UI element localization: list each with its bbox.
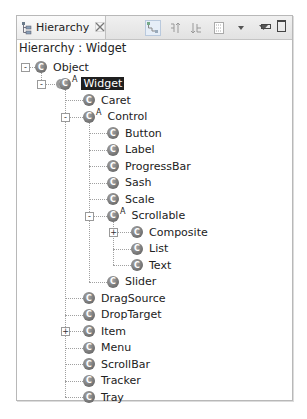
tree-connector (65, 348, 83, 349)
tree-item[interactable]: CDropTarget (83, 307, 162, 323)
abstract-marker: A (120, 207, 125, 216)
tree-item-label: ProgressBar (125, 160, 191, 173)
class-icon: C (107, 127, 119, 139)
show-supertype-hierarchy-button[interactable] (167, 20, 183, 36)
expand-toggle[interactable]: + (61, 327, 70, 336)
tree-item-label: Widget (81, 77, 124, 90)
class-icon: C (107, 276, 119, 288)
tree-connector (65, 397, 83, 398)
show-type-hierarchy-button[interactable] (145, 20, 161, 36)
abstract-marker: A (72, 75, 77, 84)
tree-item[interactable]: CList (131, 241, 168, 257)
tree-item-label: List (149, 242, 168, 255)
tree-item[interactable]: CAScrollable (107, 208, 185, 224)
tree-connector (65, 298, 83, 299)
type-hierarchy-tree[interactable]: -CObject-CAWidgetCCaret-CAControlCButton… (17, 56, 292, 400)
class-icon: C (83, 342, 95, 354)
tree-item[interactable]: CScale (107, 191, 155, 207)
hierarchy-icon (21, 21, 33, 35)
tree-item-label: Sash (125, 176, 151, 189)
tree-connector (65, 364, 83, 365)
tree-connector (89, 133, 107, 134)
tree-item[interactable]: CMenu (83, 340, 131, 356)
tree-item-label: Scale (125, 193, 155, 206)
tree-item-label: ScrollBar (101, 358, 150, 371)
class-icon: C (83, 391, 95, 403)
show-subtype-hierarchy-button[interactable] (189, 20, 205, 36)
tree-item[interactable]: CCaret (83, 92, 131, 108)
tab-label: Hierarchy (36, 21, 89, 34)
tree-item[interactable]: CItem (83, 323, 126, 339)
expand-toggle[interactable]: + (109, 228, 118, 237)
collapse-toggle[interactable]: - (21, 63, 30, 72)
tree-item[interactable]: CAControl (83, 109, 147, 125)
maximize-icon[interactable] (277, 20, 286, 32)
class-icon: C (131, 243, 143, 255)
class-icon: C (83, 358, 95, 370)
tree-item-label: Object (53, 61, 89, 74)
tree-connector (89, 199, 107, 200)
tree-item-label: Tracker (101, 374, 141, 387)
tree-connector (89, 123, 90, 282)
tree-connector (65, 100, 83, 101)
class-icon: C (131, 226, 143, 238)
tree-connector (65, 315, 83, 316)
tree-item[interactable]: CAWidget (59, 76, 124, 92)
tree-item[interactable]: CSlider (107, 274, 156, 290)
tree-item[interactable]: CSash (107, 175, 151, 191)
tree-item-label: Slider (125, 275, 156, 288)
supertype-hierarchy-icon (169, 22, 181, 34)
tree-item[interactable]: CProgressBar (107, 158, 191, 174)
tree-item-label: Scrollable (131, 209, 185, 222)
view-tab-bar: Hierarchy (17, 16, 292, 40)
minimize-icon[interactable] (261, 24, 271, 29)
history-button[interactable] (211, 20, 227, 36)
class-icon: C (83, 292, 95, 304)
collapse-toggle[interactable]: - (37, 80, 46, 89)
class-icon: C (107, 210, 119, 222)
abstract-marker: A (96, 108, 101, 117)
tree-connector (113, 265, 131, 266)
tree-connector (89, 183, 107, 184)
close-icon[interactable] (95, 22, 105, 34)
collapse-toggle[interactable]: - (85, 212, 94, 221)
tree-item-label: Composite (149, 226, 208, 239)
tree-item-label: Label (125, 143, 155, 156)
view-toolbar (145, 18, 277, 37)
small-dropdown-icon (238, 26, 244, 30)
tree-item-label: Menu (101, 341, 131, 354)
tree-item-label: Control (107, 110, 147, 123)
tree-item[interactable]: CText (131, 257, 171, 273)
class-icon: C (107, 144, 119, 156)
class-icon: C (83, 94, 95, 106)
tree-item[interactable]: CScrollBar (83, 356, 150, 372)
tab-hierarchy[interactable]: Hierarchy (17, 16, 106, 39)
tree-item[interactable]: CLabel (107, 142, 155, 158)
tree-item-label: Caret (101, 94, 131, 107)
tree-connector (113, 249, 131, 250)
tree-item-label: Text (149, 259, 171, 272)
tree-item[interactable]: CTray (83, 389, 124, 405)
tree-item-label: Item (101, 325, 126, 338)
tree-item-label: DragSource (101, 292, 166, 305)
class-icon: C (83, 325, 95, 337)
tree-item-label: DropTarget (101, 308, 162, 321)
class-icon: C (107, 193, 119, 205)
hierarchy-title: Hierarchy : Widget (19, 41, 126, 55)
tree-connector (65, 381, 83, 382)
class-icon: C (83, 375, 95, 387)
history-dropdown-button[interactable] (233, 20, 249, 36)
collapse-toggle[interactable]: - (61, 113, 70, 122)
tree-item[interactable]: CTracker (83, 373, 141, 389)
history-list-icon (214, 22, 224, 34)
tree-item-label: Button (125, 127, 162, 140)
class-icon: C (107, 160, 119, 172)
tree-connector (65, 90, 66, 398)
tree-connector (89, 282, 107, 283)
tree-item[interactable]: CDragSource (83, 290, 166, 306)
tree-item[interactable]: CObject (35, 59, 89, 75)
type-hierarchy-icon (147, 22, 159, 34)
tree-item[interactable]: CComposite (131, 224, 208, 240)
class-icon: C (131, 259, 143, 271)
tree-item[interactable]: CButton (107, 125, 162, 141)
